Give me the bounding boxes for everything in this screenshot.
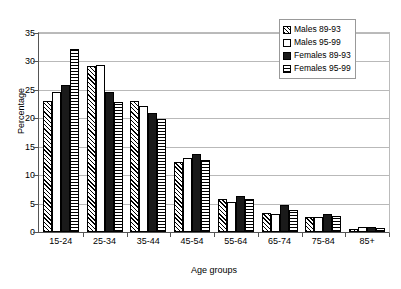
x-tick-label: 45-54 [170, 236, 214, 246]
bar [61, 85, 70, 232]
x-tick-label: 15-24 [39, 236, 83, 246]
legend-swatch [283, 26, 291, 34]
bar [174, 162, 183, 233]
x-tick-label: 75-84 [302, 236, 346, 246]
bar-group [39, 33, 83, 232]
bar [130, 101, 139, 232]
bar-chart: Percentage Age groups 05101520253035 15-… [0, 0, 401, 289]
bar [367, 227, 376, 232]
legend-label: Females 95-99 [294, 64, 351, 73]
legend-item: Males 95-99 [283, 36, 351, 49]
y-tick-label: 35 [9, 29, 35, 38]
y-tick-label: 20 [9, 114, 35, 123]
x-tick-label: 55-64 [214, 236, 258, 246]
legend-label: Females 89-93 [294, 51, 351, 60]
bar [218, 199, 227, 232]
y-tick-label: 5 [9, 200, 35, 209]
x-tick-mark [389, 233, 390, 237]
x-axis-title: Age groups [38, 265, 390, 275]
bar [376, 228, 385, 232]
legend-label: Males 89-93 [294, 25, 341, 34]
legend-swatch [283, 65, 291, 73]
bar [201, 160, 210, 232]
legend-swatch [283, 39, 291, 47]
bar [52, 92, 61, 232]
x-tick-label: 65-74 [258, 236, 302, 246]
bar [245, 199, 254, 232]
bar [70, 49, 79, 232]
bar-group [214, 33, 258, 232]
y-tick-label: 0 [9, 228, 35, 237]
bar [349, 229, 358, 232]
bar [148, 113, 157, 232]
bar-group [127, 33, 171, 232]
bar-group [83, 33, 127, 232]
y-tick-label: 30 [9, 57, 35, 66]
bar [105, 92, 114, 232]
bar [87, 66, 96, 232]
bar [114, 102, 123, 232]
bar [236, 196, 245, 232]
y-tick-label: 10 [9, 171, 35, 180]
legend-item: Males 89-93 [283, 23, 351, 36]
bar [139, 106, 148, 232]
bar [192, 154, 201, 232]
bar [332, 216, 341, 232]
x-tick-label: 85+ [345, 236, 389, 246]
legend-item: Females 89-93 [283, 49, 351, 62]
x-tick-label: 25-34 [83, 236, 127, 246]
bar [289, 210, 298, 232]
bar [262, 213, 271, 232]
bar-group [170, 33, 214, 232]
bar [43, 101, 52, 232]
x-axis-tick-labels: 15-2425-3435-4445-5455-6465-7475-8485+ [39, 236, 389, 246]
legend-label: Males 95-99 [294, 38, 341, 47]
x-tick-label: 35-44 [127, 236, 171, 246]
legend-item: Females 95-99 [283, 62, 351, 75]
bar [96, 65, 105, 232]
y-tick-label: 25 [9, 86, 35, 95]
bar [183, 158, 192, 232]
legend: Males 89-93Males 95-99Females 89-93Femal… [279, 19, 356, 79]
y-tick-label: 15 [9, 143, 35, 152]
legend-swatch [283, 52, 291, 60]
bar [323, 214, 332, 232]
bar [280, 205, 289, 232]
bar [358, 227, 367, 232]
bar [271, 214, 280, 232]
bar [157, 119, 166, 232]
bar [305, 217, 314, 232]
bar [227, 202, 236, 232]
bar [314, 217, 323, 232]
